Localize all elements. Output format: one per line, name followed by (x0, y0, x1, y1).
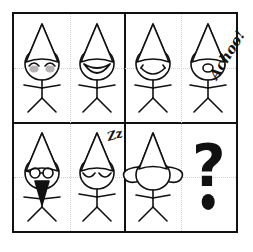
puzzle-cell-5[interactable] (14, 123, 70, 232)
blush-left-icon (29, 66, 38, 73)
puzzle-cell-7[interactable] (125, 123, 181, 232)
puzzle-cell-1[interactable] (14, 14, 70, 123)
leg-left-line (83, 98, 97, 112)
figure-bearded-glasses-gnome (16, 131, 68, 223)
arm-left-line (190, 85, 208, 88)
blush-right-icon (45, 66, 54, 73)
cone-hat-front (26, 133, 58, 171)
leg-right-line (42, 207, 56, 221)
cone-hat-front (26, 24, 58, 62)
leg-left-line (28, 98, 42, 112)
arm-right-line (153, 195, 170, 198)
stick-figure-svg (71, 131, 123, 223)
leg-left-line (139, 207, 153, 221)
cone-hat-front (81, 24, 113, 62)
stick-figure-svg (122, 131, 184, 223)
arm-left-line (79, 85, 97, 88)
puzzle-cell-6[interactable]: Zz (70, 123, 126, 232)
arm-left-line (79, 194, 97, 197)
arm-left-line (24, 85, 42, 88)
arm-right-line (208, 85, 226, 88)
leg-left-line (28, 207, 42, 221)
figure-big-eared-gnome (122, 131, 184, 223)
stick-figure-svg (16, 22, 68, 114)
leg-left-line (194, 98, 208, 112)
cone-hat-front (192, 24, 224, 62)
cone-hat-front (139, 133, 167, 169)
stick-figure-svg (16, 131, 68, 223)
small-open-mouth-icon (203, 64, 213, 72)
puzzle-cell-2[interactable] (70, 14, 126, 123)
glasses-temple-icon (26, 171, 30, 172)
leg-right-line (97, 98, 111, 112)
stick-figure-svg (182, 22, 234, 114)
stick-figure-svg (127, 22, 179, 114)
cone-hat-front (81, 133, 113, 171)
arm-right-line (97, 194, 115, 197)
cone-hat-front (137, 24, 169, 62)
question-mark-icon: ? (192, 144, 225, 189)
arm-right-line (97, 85, 115, 88)
stick-figure-svg (71, 22, 123, 114)
leg-right-line (153, 207, 167, 221)
leg-right-line (42, 98, 56, 112)
puzzle-root: Achoo! (0, 0, 253, 252)
figure-sneezing-gnome (182, 22, 234, 114)
figure-sleeping-gnome (71, 131, 123, 223)
arm-right-line (153, 85, 171, 88)
puzzle-cell-3[interactable] (125, 14, 181, 123)
arm-left-line (135, 85, 153, 88)
leg-left-line (139, 98, 153, 112)
question-mark-dot-icon (202, 194, 215, 210)
question-mark-placeholder: ? (192, 144, 225, 210)
puzzle-cell-8-answer[interactable]: ? (181, 123, 237, 232)
puzzle-grid: Achoo! (12, 12, 238, 233)
figure-sad-frowning-gnome (127, 22, 179, 114)
leg-right-line (153, 98, 167, 112)
puzzle-cell-4[interactable]: Achoo! (181, 14, 237, 123)
figure-big-smile-gnome (71, 22, 123, 114)
arm-right-line (42, 85, 60, 88)
figure-happy-blushing-gnome (16, 22, 68, 114)
leg-left-line (83, 207, 97, 221)
leg-right-line (208, 98, 222, 112)
arm-left-line (136, 195, 153, 198)
leg-right-line (97, 207, 111, 221)
